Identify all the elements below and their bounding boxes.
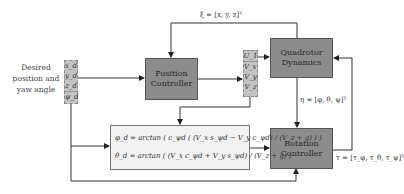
input-y-d: y_d xyxy=(65,71,77,81)
position-controller-label: Position Controller xyxy=(146,69,197,89)
torque-label: τ = [τ_φ, τ_θ, τ_ψ]ᵀ xyxy=(336,154,404,162)
control-output-stack: U_1 V_x V_y V_z xyxy=(243,50,258,97)
output-vz: V_z xyxy=(244,82,256,92)
desired-input-stack: x_d y_d z_d ψ_d xyxy=(64,60,78,104)
output-vx: V_x xyxy=(244,61,257,72)
desired-angles-formula-box: φ_d = arctan ( c_ψd ( (V_x s_ψd − V_y c_… xyxy=(110,125,250,170)
input-x-d: x_d xyxy=(65,61,77,71)
quadrotor-dynamics-label: Quadrotor Dynamics xyxy=(271,48,332,68)
quadrotor-dynamics-block: Quadrotor Dynamics xyxy=(270,38,333,78)
desired-input-label: Desired position and yaw angle xyxy=(8,62,64,95)
input-z-d: z_d xyxy=(65,81,77,91)
position-controller-block: Position Controller xyxy=(145,58,198,100)
output-vy: V_y xyxy=(244,72,257,82)
output-u1: U_1 xyxy=(244,51,258,61)
input-psi-d: ψ_d xyxy=(65,91,77,102)
phi-d-formula: φ_d = arctan ( c_ψd ( (V_x s_ψd − V_y c_… xyxy=(115,134,322,142)
attitude-state-label: η = [φ, θ, ψ]ᵀ xyxy=(300,96,346,104)
position-state-label: ξ = [x, y, z]ᵀ xyxy=(200,11,242,19)
theta-d-formula: θ_d = arctan ( (V_x c_ψd + V_y s_ψd) / (… xyxy=(115,152,292,160)
